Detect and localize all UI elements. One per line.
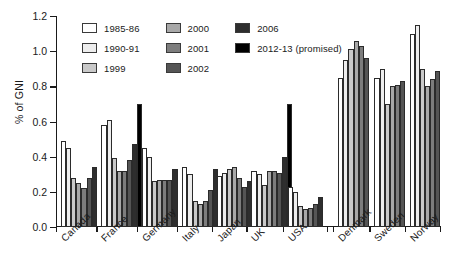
legend-swatch [235,23,250,34]
legend-item-label: 2001 [188,43,210,54]
legend-swatch [82,63,97,74]
x-tick-mark [246,227,247,232]
y-tick-label: 0.8 [32,80,47,92]
legend-item-label: 1985-86 [104,23,140,34]
legend-item-label: 1990-91 [104,43,140,54]
legend-item-label: 2006 [257,23,279,34]
bar [364,58,369,227]
legend-item: 1999 [82,63,140,74]
bar [435,71,440,227]
y-tick-mark [50,122,56,123]
y-tick-label: 0.6 [32,116,47,128]
y-tick-mark [50,51,56,52]
legend-swatch [235,43,250,54]
x-tick-mark [177,227,178,232]
y-tick-mark [50,192,56,193]
legend-item-label: 1999 [104,63,126,74]
bar-group [374,16,405,227]
bar [400,81,405,227]
x-tick-mark [440,227,441,232]
legend-item: 2006 [235,23,342,34]
legend-item-label: 2002 [188,63,210,74]
x-tick-mark [283,227,284,232]
y-tick-mark [50,16,56,17]
legend-swatch [166,23,181,34]
x-tick-mark [212,227,213,232]
legend-item: 1990-91 [82,43,140,54]
legend: 1985-861990-91199920002001200220062012-1… [82,18,342,78]
x-axis-tick-label: UK [249,226,267,244]
x-tick-mark [137,227,138,232]
legend-item-label: 2012-13 (promised) [257,43,342,54]
y-tick-label: 0.0 [32,221,47,233]
x-tick-mark [405,227,406,232]
legend-swatch [166,43,181,54]
x-tick-mark [56,227,57,232]
y-tick-label: 0.4 [32,151,47,163]
legend-item-label: 2000 [188,23,210,34]
bar-chart: % of GNI 0.00.20.40.60.81.01.2 CanadaFra… [0,0,457,278]
y-tick-mark [50,157,56,158]
y-tick-label: 0.2 [32,186,47,198]
y-tick-label: 1.0 [32,45,47,57]
y-axis-line [56,16,57,227]
x-tick-mark [327,227,328,232]
legend-item: 2001 [166,43,210,54]
bar [318,197,323,227]
legend-swatch [166,63,181,74]
bar-group [338,16,369,227]
x-tick-mark [369,227,370,232]
y-tick-mark [50,86,56,87]
x-tick-mark [333,227,334,232]
y-tick-label: 1.2 [32,10,47,22]
legend-item: 2012-13 (promised) [235,43,342,54]
legend-item: 1985-86 [82,23,140,34]
legend-swatch [82,43,97,54]
legend-item: 2002 [166,63,210,74]
x-tick-mark [96,227,97,232]
legend-swatch [82,23,97,34]
y-axis-label: % of GNI [13,57,25,147]
legend-item: 2000 [166,23,210,34]
bar-group [410,16,441,227]
